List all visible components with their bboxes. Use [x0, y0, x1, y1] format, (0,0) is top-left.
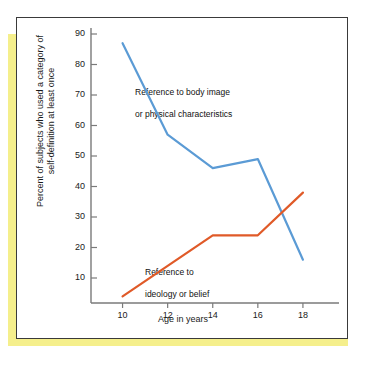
x-tick-label-18: 18 — [291, 310, 315, 320]
y-tick-label-30: 30 — [61, 211, 85, 221]
x-tick-label-14: 14 — [201, 310, 225, 320]
caption-line-1 — [356, 22, 382, 32]
series-line-ideology — [123, 193, 303, 297]
caption-fragment — [356, 22, 382, 82]
chart-frame: Percent of subjects who used a category … — [16, 17, 348, 339]
y-tick-label-70: 70 — [61, 89, 85, 99]
caption-line-4 — [356, 52, 382, 62]
caption-line-2 — [356, 32, 382, 42]
y-tick-label-10: 10 — [61, 272, 85, 282]
y-tick-label-40: 40 — [61, 181, 85, 191]
y-tick-label-50: 50 — [61, 150, 85, 160]
series-line-body-image — [123, 43, 303, 260]
caption-line-3 — [356, 42, 382, 52]
x-tick-label-16: 16 — [246, 310, 270, 320]
y-tick-label-20: 20 — [61, 242, 85, 252]
x-tick-label-12: 12 — [156, 310, 180, 320]
y-tick-label-90: 90 — [61, 28, 85, 38]
y-tick-label-80: 80 — [61, 59, 85, 69]
series-group — [123, 43, 303, 296]
plot-area: Percent of subjects who used a category … — [17, 18, 349, 340]
y-tick-label-60: 60 — [61, 120, 85, 130]
x-tick-label-10: 10 — [111, 310, 135, 320]
figure-root: Percent of subjects who used a category … — [0, 0, 382, 365]
